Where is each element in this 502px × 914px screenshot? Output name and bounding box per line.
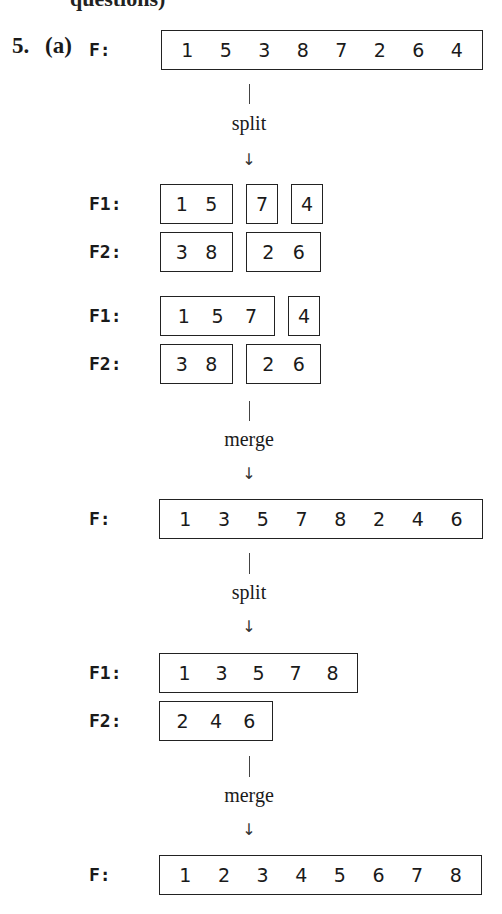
value: 4	[292, 305, 316, 327]
label-F1: F1:	[89, 296, 122, 336]
value: 2	[367, 508, 391, 530]
value: 1	[175, 39, 199, 61]
down-arrow-icon: ↓	[239, 150, 259, 170]
run-box: 2 6	[246, 232, 321, 272]
value: 6	[366, 864, 390, 886]
run-box: 7	[246, 184, 278, 224]
run-box: 1 2 3 4 5 6 7 8	[159, 855, 482, 895]
label-F1: F1:	[89, 653, 122, 693]
value: 3	[170, 241, 194, 263]
value: 3	[212, 508, 236, 530]
run-box: 1 3 5 7 8	[159, 653, 358, 693]
value: 8	[321, 662, 345, 684]
value: 4	[204, 710, 228, 732]
value: 3	[210, 662, 234, 684]
run-box: 1 5 7	[160, 296, 275, 336]
down-arrow-icon: ↓	[239, 464, 259, 484]
question-part: (a)	[45, 33, 72, 59]
label-F: F:	[89, 30, 111, 70]
value: 5	[251, 508, 275, 530]
value: 4	[445, 39, 469, 61]
label-F2: F2:	[89, 232, 122, 272]
value: 8	[199, 241, 223, 263]
value: 2	[256, 241, 280, 263]
value: 7	[405, 864, 429, 886]
run-box: 1 5	[160, 184, 233, 224]
down-arrow-icon: ↓	[239, 820, 259, 840]
value: 8	[291, 39, 315, 61]
value: 2	[171, 710, 195, 732]
connector-line	[249, 553, 250, 574]
value: 1	[173, 662, 197, 684]
label-F2: F2:	[89, 344, 122, 384]
split-label: split	[209, 112, 289, 135]
run-box: 3 8	[160, 344, 233, 384]
value: 4	[289, 864, 313, 886]
connector-line	[249, 84, 250, 104]
value: 3	[251, 864, 275, 886]
label-F2: F2:	[89, 701, 122, 741]
value: 1	[173, 508, 197, 530]
run-box: 4	[291, 184, 323, 224]
run-box: 2 6	[246, 344, 321, 384]
connector-line	[249, 756, 250, 777]
split-label: split	[209, 581, 289, 604]
value: 3	[252, 39, 276, 61]
value: 4	[295, 193, 319, 215]
merge-label: merge	[209, 428, 289, 451]
value: 5	[328, 864, 352, 886]
value: 7	[250, 193, 274, 215]
value: 2	[256, 353, 280, 375]
value: 1	[170, 193, 194, 215]
value: 8	[199, 353, 223, 375]
run-box: 2 4 6	[159, 701, 273, 741]
value: 1	[172, 305, 196, 327]
label-F1: F1:	[89, 184, 122, 224]
value: 8	[444, 864, 468, 886]
run-box: 1 5 3 8 7 2 6 4	[161, 30, 483, 70]
value: 8	[328, 508, 352, 530]
value: 6	[406, 39, 430, 61]
value: 3	[170, 353, 194, 375]
value: 6	[287, 353, 311, 375]
cutoff-heading: questions)	[70, 0, 165, 12]
value: 4	[406, 508, 430, 530]
run-box: 1 3 5 7 8 2 4 6	[159, 499, 483, 539]
run-box: 3 8	[160, 232, 233, 272]
value: 5	[205, 305, 229, 327]
value: 6	[287, 241, 311, 263]
label-F: F:	[89, 855, 111, 895]
value: 6	[445, 508, 469, 530]
down-arrow-icon: ↓	[239, 617, 259, 637]
value: 1	[173, 864, 197, 886]
run-box: 4	[288, 296, 320, 336]
value: 6	[237, 710, 261, 732]
label-F: F:	[89, 499, 111, 539]
value: 2	[368, 39, 392, 61]
value: 5	[247, 662, 271, 684]
value: 5	[199, 193, 223, 215]
value: 7	[290, 508, 314, 530]
question-number: 5.	[12, 33, 29, 59]
value: 7	[329, 39, 353, 61]
connector-line	[249, 401, 250, 421]
value: 5	[214, 39, 238, 61]
value: 7	[284, 662, 308, 684]
merge-label: merge	[209, 784, 289, 807]
value: 7	[239, 305, 263, 327]
value: 2	[212, 864, 236, 886]
